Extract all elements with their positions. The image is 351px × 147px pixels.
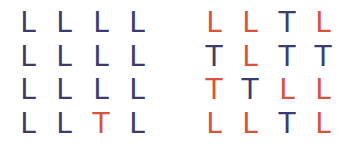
- letter-cell: T: [272, 8, 302, 38]
- letter-cell: L: [86, 75, 116, 105]
- letter-cell: T: [272, 109, 302, 139]
- letter-cell: L: [122, 8, 152, 38]
- letter-cell: L: [86, 42, 116, 72]
- letter-cell: L: [308, 8, 338, 38]
- letter-cell: T: [86, 109, 116, 139]
- letter-cell: L: [49, 8, 79, 38]
- letter-cell: L: [122, 75, 152, 105]
- letter-cell: T: [235, 75, 265, 105]
- letter-cell: L: [13, 8, 43, 38]
- letter-cell: L: [13, 109, 43, 139]
- letter-cell: T: [199, 75, 229, 105]
- letter-cell: L: [199, 8, 229, 38]
- letter-cell: T: [272, 42, 302, 72]
- letter-cell: L: [49, 109, 79, 139]
- letter-cell: L: [122, 109, 152, 139]
- letter-cell: L: [308, 75, 338, 105]
- letter-cell: L: [13, 42, 43, 72]
- letter-cell: L: [199, 109, 229, 139]
- letter-cell: L: [122, 42, 152, 72]
- letter-cell: L: [235, 42, 265, 72]
- letter-cell: L: [235, 109, 265, 139]
- letter-cell: L: [49, 42, 79, 72]
- left-letter-grid: LLLLLLLLLLLLLLTL: [10, 8, 160, 140]
- letter-cell: L: [49, 75, 79, 105]
- right-letter-grid: LLTLTLTTTTLLLLTL: [196, 8, 346, 140]
- letter-cell: L: [13, 75, 43, 105]
- letter-cell: L: [308, 109, 338, 139]
- letter-cell: L: [272, 75, 302, 105]
- letter-cell: T: [199, 42, 229, 72]
- letter-cell: T: [308, 42, 338, 72]
- letter-cell: L: [235, 8, 265, 38]
- letter-cell: L: [86, 8, 116, 38]
